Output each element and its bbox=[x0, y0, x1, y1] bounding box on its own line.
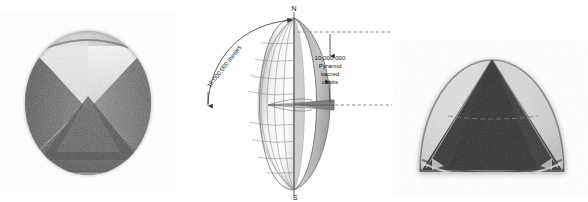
panel-left-photo bbox=[0, 0, 196, 202]
arc-length-label: 10,000,000 meters bbox=[205, 44, 242, 89]
panel-middle-diagram: 10,000,000 meters 10,000,000 Pyramid sac… bbox=[196, 0, 392, 202]
globe-diagram-svg: 10,000,000 meters 10,000,000 Pyramid sac… bbox=[196, 0, 392, 202]
left-sphere-group bbox=[18, 31, 158, 175]
right-dome-group bbox=[416, 58, 568, 178]
south-pole-label: S bbox=[293, 194, 298, 201]
figure-root: 10,000,000 meters 10,000,000 Pyramid sac… bbox=[0, 0, 588, 202]
height-label-line-1: 10,000,000 bbox=[315, 54, 347, 61]
panel-right-photo bbox=[392, 0, 588, 202]
north-pole-label: N bbox=[291, 5, 296, 12]
height-label-line-4: cubits bbox=[322, 78, 338, 85]
right-photo-svg bbox=[392, 0, 588, 202]
height-label-line-2: Pyramid bbox=[319, 62, 342, 69]
left-photo-svg bbox=[0, 0, 196, 202]
height-label-line-3: sacred bbox=[321, 70, 340, 77]
globe-group bbox=[244, 12, 334, 196]
